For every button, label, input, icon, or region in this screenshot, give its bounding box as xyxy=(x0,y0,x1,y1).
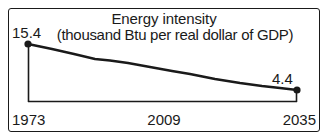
data-label-start-value: 15.4 xyxy=(12,25,41,40)
chart-subtitle: (thousand Btu per real dollar of GDP) xyxy=(0,27,328,42)
data-label-end-value: 4.4 xyxy=(272,71,293,86)
chart-title: Energy intensity xyxy=(0,11,328,26)
x-axis-tick-label-right: 2035 xyxy=(0,112,316,127)
energy-intensity-line xyxy=(28,44,297,90)
data-point-marker-end xyxy=(293,86,300,93)
energy-intensity-chart-figure: Energy intensity (thousand Btu per real … xyxy=(0,0,328,140)
